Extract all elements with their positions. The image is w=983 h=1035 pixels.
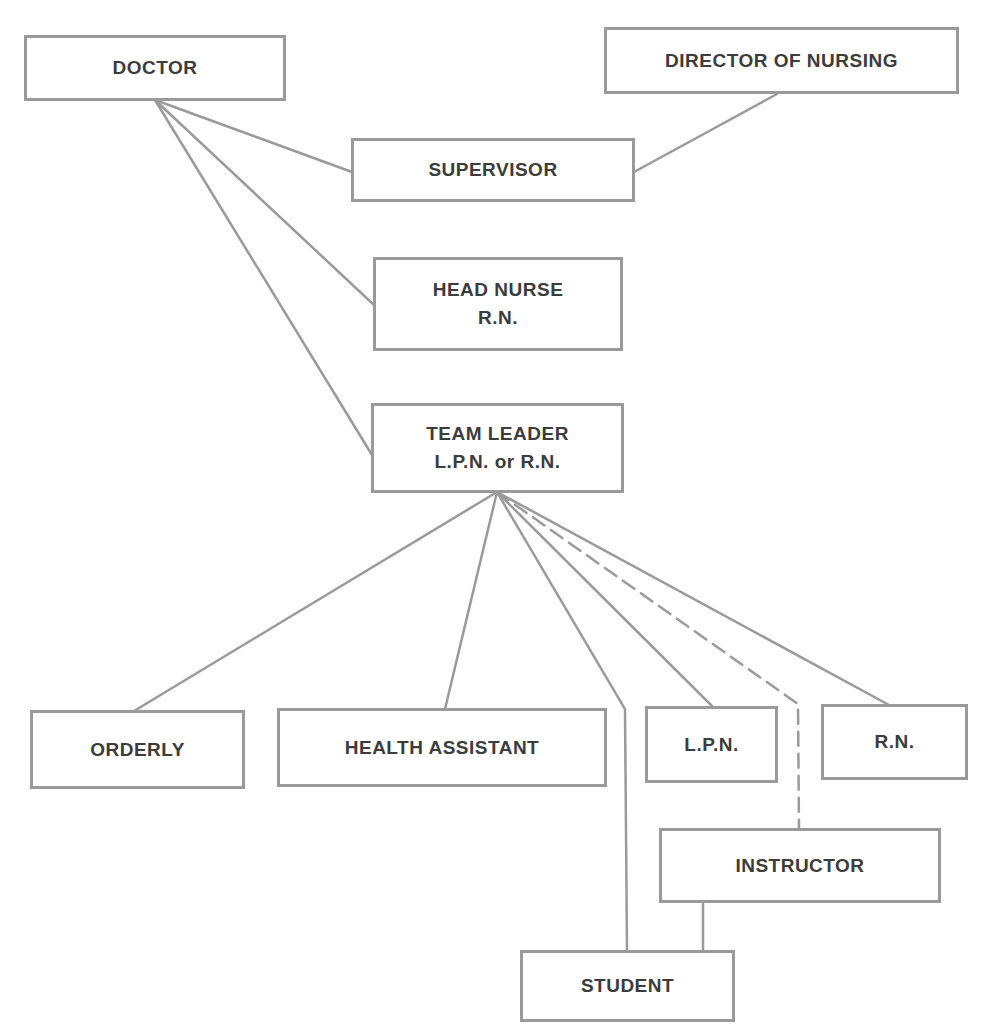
- node-label: SUPERVISOR: [428, 156, 557, 184]
- node-team-leader: TEAM LEADER L.P.N. or R.N.: [371, 403, 624, 493]
- edge-doctor-head-nurse: [155, 100, 374, 305]
- edge-teamleader-rn: [497, 492, 889, 705]
- node-label: INSTRUCTOR: [735, 852, 864, 880]
- edge-teamleader-health-assistant: [445, 492, 497, 709]
- node-sublabel: R.N.: [478, 304, 518, 332]
- edge-doctor-team-leader: [155, 100, 372, 455]
- node-director-of-nursing: DIRECTOR OF NURSING: [604, 27, 959, 94]
- edge-director-supervisor: [634, 94, 777, 172]
- node-supervisor: SUPERVISOR: [351, 138, 635, 202]
- node-rn: R.N.: [821, 704, 968, 780]
- node-lpn: L.P.N.: [645, 706, 778, 783]
- node-label: DOCTOR: [113, 54, 198, 82]
- node-label: STUDENT: [581, 972, 674, 1000]
- node-head-nurse: HEAD NURSE R.N.: [373, 257, 623, 351]
- edge-teamleader-orderly: [134, 492, 497, 711]
- node-label: HEAD NURSE: [433, 276, 564, 304]
- node-label: R.N.: [875, 728, 915, 756]
- node-doctor: DOCTOR: [24, 35, 286, 101]
- node-health-assistant: HEALTH ASSISTANT: [277, 708, 607, 787]
- node-label: DIRECTOR OF NURSING: [665, 47, 898, 75]
- node-label: ORDERLY: [90, 736, 185, 764]
- node-label: L.P.N.: [684, 731, 738, 759]
- node-sublabel: L.P.N. or R.N.: [435, 448, 561, 476]
- edge-doctor-supervisor: [155, 100, 352, 172]
- node-label: TEAM LEADER: [426, 420, 569, 448]
- node-label: HEALTH ASSISTANT: [345, 734, 539, 762]
- node-instructor: INSTRUCTOR: [659, 828, 941, 903]
- node-orderly: ORDERLY: [30, 710, 245, 789]
- node-student: STUDENT: [520, 950, 735, 1022]
